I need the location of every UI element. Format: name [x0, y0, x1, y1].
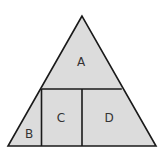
- region-label-d: D: [104, 111, 113, 125]
- region-label-a: A: [77, 55, 86, 69]
- diagram-canvas: A B C D: [0, 0, 162, 153]
- triangle-diagram: A B C D: [0, 0, 162, 153]
- region-label-b: B: [25, 127, 33, 141]
- region-label-c: C: [57, 111, 65, 125]
